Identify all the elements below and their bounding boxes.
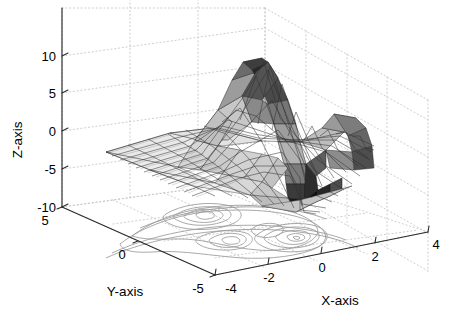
y-tick-label-0: 0 — [112, 248, 132, 261]
z-tick-label-5: 5 — [14, 87, 56, 100]
x-tick-label-4: 4 — [426, 238, 446, 251]
z-axis-title: Z-axis — [11, 110, 25, 170]
y-tick-label-minus5: -5 — [186, 282, 210, 295]
y-axis-title: Y-axis — [92, 285, 158, 299]
y-tick-label-5: 5 — [35, 214, 55, 227]
contour-projection — [106, 203, 358, 258]
x-tick-label-2: 2 — [365, 250, 385, 263]
x-axis-title: X-axis — [307, 294, 373, 308]
x-tick-label-minus2: -2 — [257, 271, 281, 284]
z-tick-label-minus10: -10 — [14, 201, 56, 214]
surface-plot-3d — [0, 0, 450, 314]
x-tick-label-0: 0 — [312, 261, 332, 274]
x-tick-label-minus4: -4 — [219, 282, 243, 295]
figure-canvas: 10 5 0 -5 -10 5 0 -5 -4 -2 0 2 4 Z-axis … — [0, 0, 450, 314]
grid-back-walls — [62, 0, 428, 271]
z-tick-label-10: 10 — [14, 50, 56, 63]
